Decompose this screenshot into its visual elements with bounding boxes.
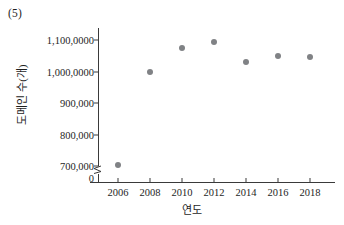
data-point xyxy=(243,59,249,65)
x-axis-tick-mark xyxy=(278,178,279,183)
x-axis-tick-mark xyxy=(118,178,119,183)
x-axis-tick-label: 2008 xyxy=(140,187,161,199)
data-point xyxy=(179,45,185,51)
y-axis-tick-mark xyxy=(94,40,99,41)
data-point xyxy=(115,162,121,168)
y-axis-title: 도메인 수(개) xyxy=(16,47,29,143)
x-axis-tick-mark xyxy=(310,178,311,183)
data-point xyxy=(275,53,281,59)
x-axis-title: 연도 xyxy=(0,203,344,217)
y-axis-tick-label: 0 xyxy=(6,173,94,184)
y-axis-line xyxy=(98,28,99,166)
x-axis-tick-label: 2018 xyxy=(300,187,321,199)
data-point xyxy=(307,54,313,60)
x-axis-tick-label: 2010 xyxy=(172,187,193,199)
scatter-chart-figure: (5) 0700,000800,000900,0001,000,00001,10… xyxy=(0,0,344,225)
y-axis-tick-mark xyxy=(94,166,99,167)
x-axis-tick-mark xyxy=(182,178,183,183)
x-axis-tick-label: 2006 xyxy=(108,187,129,199)
data-point xyxy=(211,39,217,45)
data-point xyxy=(147,69,153,75)
x-axis-tick-mark xyxy=(214,178,215,183)
y-axis-tick-mark xyxy=(94,71,99,72)
y-axis-tick-mark xyxy=(94,134,99,135)
x-axis-tick-label: 2012 xyxy=(204,187,225,199)
y-axis-tick-mark xyxy=(94,103,99,104)
x-axis-tick-label: 2016 xyxy=(268,187,289,199)
x-axis-tick-label: 2014 xyxy=(236,187,257,199)
y-axis-tick-label: 700,000 xyxy=(6,161,94,172)
x-axis-line xyxy=(90,182,335,183)
y-axis-tick-label: 1,100,0000 xyxy=(6,35,94,46)
x-axis-tick-mark xyxy=(246,178,247,183)
x-axis-tick-mark xyxy=(150,178,151,183)
x-axis-title-text: 연도 xyxy=(182,204,202,216)
y-axis-tick-labels: 0700,000800,000900,0001,000,00001,100,00… xyxy=(0,0,94,225)
